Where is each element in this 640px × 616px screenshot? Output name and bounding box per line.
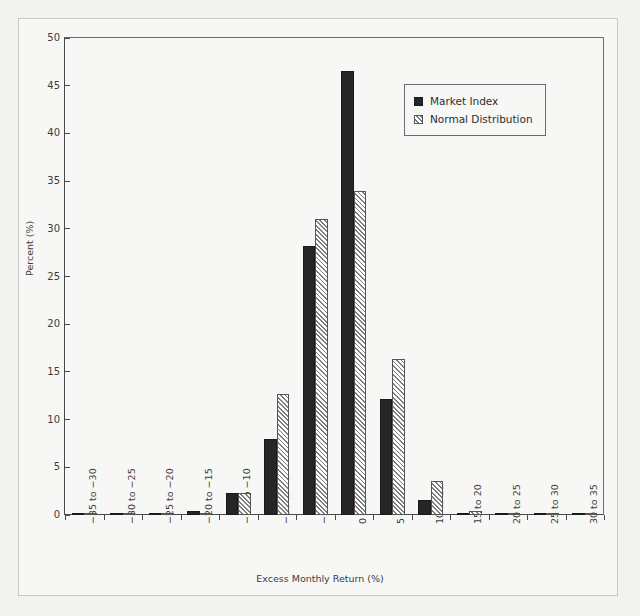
x-axis-tick-mark [219, 515, 220, 520]
bar [187, 511, 200, 515]
bar [495, 513, 508, 515]
bar [72, 513, 85, 515]
y-axis-tick-mark [65, 276, 70, 277]
legend-swatch-normal-distribution [414, 115, 423, 124]
legend: Market Index Normal Distribution [404, 84, 546, 136]
y-axis-tick: 30 [47, 223, 65, 235]
bar [84, 513, 97, 515]
bar [315, 219, 328, 515]
bar [457, 513, 470, 515]
y-axis-tick-mark [65, 419, 70, 420]
y-axis-tick: 15 [47, 366, 65, 378]
x-axis-tick-mark [258, 515, 259, 520]
bar [200, 513, 213, 515]
x-axis-tick-mark [181, 515, 182, 520]
bar [585, 513, 598, 515]
x-axis-tick-mark [296, 515, 297, 520]
x-axis-tick-label: 25 to 30 [550, 484, 560, 524]
bar [546, 513, 559, 515]
legend-item: Normal Distribution [414, 110, 533, 128]
x-axis-tick-label: 30 to 35 [589, 484, 599, 524]
y-axis-tick-label: 25 [47, 272, 65, 282]
bar [354, 191, 367, 515]
x-axis-tick-mark [566, 515, 567, 520]
y-axis-tick-label: 0 [54, 510, 65, 520]
x-axis-tick-label: −35 to −30 [88, 468, 98, 524]
x-axis-tick-mark [489, 515, 490, 520]
bar [123, 513, 136, 515]
y-axis-title: Percent (%) [24, 221, 35, 276]
y-axis-tick-mark [65, 133, 70, 134]
y-axis-tick: 25 [47, 271, 65, 283]
x-axis-tick-mark [604, 515, 605, 520]
bar [534, 513, 547, 515]
x-axis-tick-label: 15 to 20 [473, 484, 483, 524]
x-axis-tick-mark [104, 515, 105, 520]
x-axis-tick-label: −20 to −15 [204, 468, 214, 524]
y-axis-tick-label: 5 [54, 462, 65, 472]
legend-swatch-market-index [414, 97, 423, 106]
bar [418, 500, 431, 515]
x-axis-tick-mark [412, 515, 413, 520]
y-axis-tick-label: 10 [47, 415, 65, 425]
y-axis-tick-label: 45 [47, 81, 65, 91]
y-axis-tick-mark [65, 85, 70, 86]
y-axis-tick-mark [65, 371, 70, 372]
bar [303, 246, 316, 515]
y-axis-tick: 40 [47, 127, 65, 139]
x-axis-tick-mark [527, 515, 528, 520]
bar [431, 481, 444, 515]
y-axis-tick-mark [65, 38, 70, 39]
y-axis-tick: 50 [47, 32, 65, 44]
y-axis-tick-label: 50 [47, 33, 65, 43]
y-axis-tick: 0 [54, 509, 65, 521]
y-axis-tick-mark [65, 324, 70, 325]
bar [508, 513, 521, 515]
x-axis-tick-mark [373, 515, 374, 520]
legend-label-normal-distribution: Normal Distribution [430, 113, 533, 125]
legend-label-market-index: Market Index [430, 95, 498, 107]
y-axis-tick: 10 [47, 414, 65, 426]
y-axis-tick-label: 15 [47, 367, 65, 377]
x-axis-tick-mark [65, 515, 66, 520]
bar [110, 513, 123, 515]
bar [226, 493, 239, 515]
x-axis-tick-mark [142, 515, 143, 520]
y-axis-tick-mark [65, 228, 70, 229]
y-axis-tick-label: 35 [47, 176, 65, 186]
chart-figure: Percent (%) 05101520253035404550 −35 to … [0, 0, 640, 616]
bar [392, 359, 405, 515]
x-axis-tick-mark [335, 515, 336, 520]
y-axis-tick-label: 30 [47, 224, 65, 234]
bar [277, 394, 290, 515]
x-axis-title: Excess Monthly Return (%) [0, 573, 640, 584]
bar [264, 439, 277, 515]
bar [380, 399, 393, 515]
y-axis-tick-label: 40 [47, 128, 65, 138]
bar [341, 71, 354, 515]
bar [469, 511, 482, 515]
x-axis-tick-label: −25 to −20 [165, 468, 175, 524]
bar [238, 493, 251, 515]
x-axis-tick-label: −30 to −25 [127, 468, 137, 524]
y-axis-tick: 20 [47, 318, 65, 330]
y-axis-tick: 5 [54, 461, 65, 473]
x-axis-tick-label: 20 to 25 [512, 484, 522, 524]
y-axis-tick-mark [65, 467, 70, 468]
bar [149, 513, 162, 515]
bar [572, 513, 585, 515]
x-axis-tick-mark [450, 515, 451, 520]
legend-item: Market Index [414, 92, 533, 110]
bar [161, 513, 174, 515]
y-axis-tick-mark [65, 181, 70, 182]
y-axis-tick: 45 [47, 80, 65, 92]
y-axis-tick: 35 [47, 175, 65, 187]
y-axis-tick-label: 20 [47, 319, 65, 329]
